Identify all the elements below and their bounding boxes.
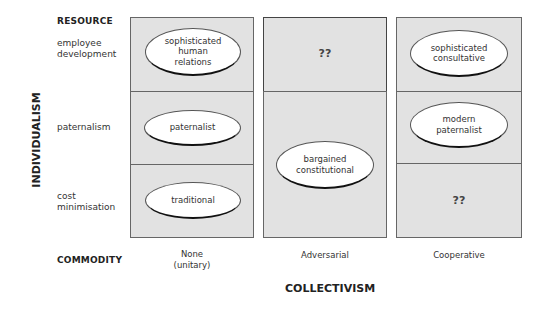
commodity-label: COMMODITY [57,255,122,265]
ellipse-text: constitutional [296,165,354,176]
column-label-line: (unitary) [130,260,254,271]
column-label-none-unitary: None (unitary) [130,249,254,271]
row-label-line: employee [57,38,116,49]
ellipse-text: relations [165,57,222,68]
row-label-employee-development: employee development [57,38,116,60]
row-label-paternalism: paternalism [57,122,111,133]
ellipse-text: consultative [431,53,488,64]
ellipse-text: paternalist [170,122,216,133]
ellipse-text: sophisticated [431,43,488,54]
ellipse-text: bargained [296,154,354,165]
column-label-cooperative: Cooperative [396,250,522,261]
resource-label: RESOURCE [57,16,113,26]
ellipse-text: modern [436,114,482,125]
column-label-line: Cooperative [396,250,522,261]
ellipse-paternalist: paternalist [144,110,241,146]
individualism-axis-label: INDIVIDUALISM [30,92,43,187]
row-label-line: minimisation [57,202,115,213]
row-label-line: cost [57,191,115,202]
unknown-marker: ?? [263,47,387,60]
row-label-line: development [57,49,116,60]
unknown-marker: ?? [396,194,522,207]
column-label-adversarial: Adversarial [263,250,387,261]
ellipse-text: human [165,46,222,57]
ellipse-bargained-constitutional: bargained constitutional [276,141,374,189]
ellipse-text: traditional [171,195,215,206]
collectivism-axis-label: COLLECTIVISM [285,282,375,295]
ellipse-traditional: traditional [145,182,241,219]
column-label-line: Adversarial [263,250,387,261]
ellipse-text: sophisticated [165,36,222,47]
column-label-line: None [130,249,254,260]
ellipse-modern-paternalist: modern paternalist [410,102,508,148]
ellipse-sophisticated-human-relations: sophisticated human relations [145,28,241,76]
ellipse-text: paternalist [436,125,482,136]
row-label-cost-minimisation: cost minimisation [57,191,115,213]
ellipse-sophisticated-consultative: sophisticated consultative [410,30,508,77]
row-label-line: paternalism [57,122,111,133]
